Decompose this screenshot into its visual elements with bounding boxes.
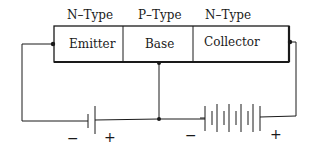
base-wire xyxy=(159,62,205,119)
base-region-label: Base xyxy=(145,38,174,50)
emitter-region-label: Emitter xyxy=(69,38,115,50)
collector-wire xyxy=(260,42,296,117)
base-top-junction-dot xyxy=(157,61,161,65)
emitter-battery-positive-sign: + xyxy=(104,130,116,144)
collector-junction-dot xyxy=(288,40,292,44)
emitter-type-label: N–Type xyxy=(67,9,113,21)
collector-type-label: N–Type xyxy=(205,9,251,21)
collector-battery xyxy=(200,104,260,132)
emitter-battery xyxy=(88,106,159,134)
emitter-battery-negative-sign: − xyxy=(67,131,79,145)
collector-region-label: Collector xyxy=(204,36,260,48)
collector-battery-positive-sign: + xyxy=(270,127,282,141)
emitter-junction-dot xyxy=(51,42,55,46)
transistor-circuit-diagram xyxy=(0,0,313,153)
emitter-wire xyxy=(22,44,88,121)
base-bottom-junction-dot xyxy=(157,117,161,121)
collector-battery-negative-sign: − xyxy=(185,128,197,142)
base-type-label: P–Type xyxy=(138,9,182,21)
